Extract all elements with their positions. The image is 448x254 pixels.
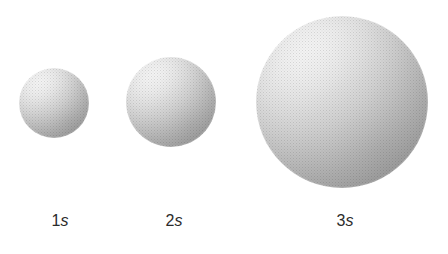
orbital-sphere-2s bbox=[126, 57, 216, 147]
orbital-label-3s: 3s bbox=[337, 213, 354, 229]
sphere-shading-2s bbox=[126, 57, 216, 147]
orbital-label-2s-l: s bbox=[174, 212, 182, 229]
orbital-label-1s: 1s bbox=[52, 213, 69, 229]
sphere-rim-1s bbox=[18, 67, 90, 139]
orbital-label-3s-l: s bbox=[345, 212, 353, 229]
orbital-label-2s-n: 2 bbox=[166, 212, 175, 229]
sphere-rim-2s bbox=[125, 56, 217, 148]
orbital-sphere-1s bbox=[19, 68, 89, 138]
sphere-shading-3s bbox=[256, 16, 428, 188]
orbital-label-2s: 2s bbox=[166, 213, 183, 229]
orbital-sphere-3s bbox=[256, 16, 428, 188]
orbital-size-figure: 1s 2s 3s bbox=[0, 0, 448, 254]
orbital-label-3s-n: 3 bbox=[337, 212, 346, 229]
orbital-label-1s-n: 1 bbox=[52, 212, 61, 229]
orbital-label-1s-l: s bbox=[60, 212, 68, 229]
sphere-shading-1s bbox=[19, 68, 89, 138]
sphere-rim-3s bbox=[255, 15, 429, 189]
